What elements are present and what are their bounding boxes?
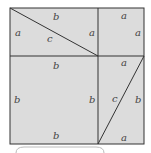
bottom-rounded-outline [16, 147, 104, 153]
label-b: b [53, 60, 59, 71]
label-a: a [15, 27, 21, 38]
label-b: b [14, 94, 20, 105]
label-a: a [135, 27, 141, 38]
pythagorean-diagram: b a a c a a b b b b a c b a [0, 0, 151, 153]
outer-square [10, 8, 144, 144]
label-a: a [121, 132, 127, 143]
label-b: b [135, 94, 141, 105]
label-c: c [112, 93, 118, 104]
label-c: c [47, 33, 53, 44]
label-b: b [53, 130, 59, 141]
label-b: b [53, 11, 59, 22]
label-a: a [89, 27, 95, 38]
label-a: a [121, 10, 127, 21]
label-a: a [121, 57, 127, 68]
label-b: b [89, 94, 95, 105]
